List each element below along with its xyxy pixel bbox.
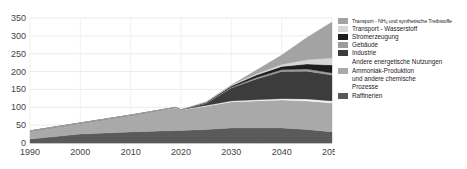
legend-item: Stromerzeugung	[338, 33, 467, 41]
legend-item: Raffinerien	[338, 92, 467, 100]
legend-swatch	[338, 59, 348, 65]
legend-swatch	[338, 26, 348, 32]
legend-label: Prozesse	[352, 83, 378, 91]
x-tick-label: 2000	[70, 147, 90, 157]
legend-item: Gebäude	[338, 41, 467, 49]
y-tick-label: 350	[11, 13, 26, 23]
y-tick-label: 250	[11, 49, 26, 59]
legend-label: Transport - NH₃ und synthetische Treibst…	[352, 17, 452, 25]
legend-swatch	[338, 42, 348, 48]
legend-item: Ammoniak-Produktion	[338, 67, 467, 75]
legend-label: Industrie	[352, 49, 376, 57]
x-tick-label: 2010	[121, 147, 141, 157]
legend-label: und andere chemische	[352, 75, 416, 83]
legend-label: Transport - Wasserstoff	[352, 25, 417, 33]
legend-item: Andere energetische Nutzungen	[338, 58, 467, 66]
legend-item: Industrie	[338, 49, 467, 57]
legend-swatch	[338, 84, 348, 90]
y-tick-label: 200	[11, 67, 26, 77]
stacked-area-chart: 050100150200250300350 199020002010202020…	[0, 0, 335, 169]
x-tick-label: 2050	[322, 147, 335, 157]
legend-swatch	[338, 34, 348, 40]
x-tick-label: 2040	[272, 147, 292, 157]
legend-swatch	[338, 50, 348, 56]
x-tick-label: 2020	[171, 147, 191, 157]
x-tick-label: 1990	[20, 147, 40, 157]
legend-swatch	[338, 68, 348, 74]
y-tick-label: 50	[16, 120, 26, 130]
legend-swatch	[338, 76, 348, 82]
legend-label: Raffinerien	[352, 92, 382, 100]
x-tick-label: 2030	[221, 147, 241, 157]
y-tick-label: 100	[11, 102, 26, 112]
x-axis: 1990200020102020203020402050	[20, 147, 335, 157]
legend-swatch	[338, 93, 348, 99]
legend-item: und andere chemische	[338, 75, 467, 83]
legend-swatch	[338, 18, 348, 24]
chart-legend: Transport - NH₃ und synthetische Treibst…	[338, 17, 467, 100]
legend-item: Transport - Wasserstoff	[338, 25, 467, 33]
legend-label: Ammoniak-Produktion	[352, 67, 414, 75]
legend-item: Prozesse	[338, 83, 467, 91]
legend-label: Stromerzeugung	[352, 33, 399, 41]
y-axis: 050100150200250300350	[11, 13, 26, 148]
legend-item: Transport - NH₃ und synthetische Treibst…	[338, 17, 467, 25]
legend-label: Gebäude	[352, 41, 378, 49]
y-tick-label: 150	[11, 84, 26, 94]
legend-label: Andere energetische Nutzungen	[352, 58, 442, 66]
y-tick-label: 300	[11, 31, 26, 41]
